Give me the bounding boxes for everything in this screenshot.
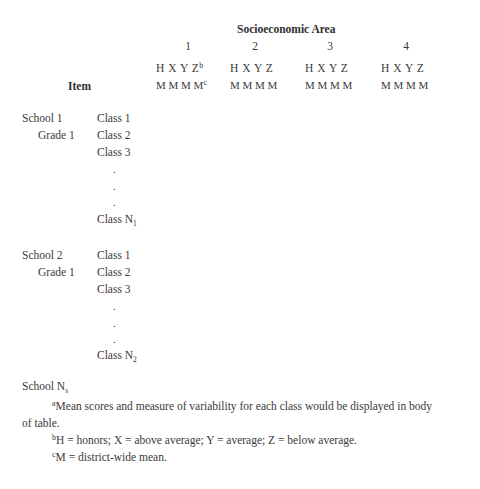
area-2-means: M M M M <box>230 79 277 91</box>
footnote-c: cM = district-wide mean. <box>52 451 167 463</box>
area-number-3: 3 <box>320 40 340 52</box>
school-n-label: School Ns <box>22 380 68 392</box>
ellipsis-dot: . <box>113 163 116 175</box>
area-1-means: M M M Mc <box>156 79 207 91</box>
ellipsis-dot: . <box>113 317 116 329</box>
area-3-means: M M M M <box>305 79 352 91</box>
school-2-class-2: Class 2 <box>97 266 131 278</box>
school-1-label: School 1 <box>22 112 63 124</box>
school-2-grade: Grade 1 <box>38 266 75 278</box>
area-4-levels: H X Y Z <box>381 62 424 74</box>
school-2-label: School 2 <box>22 249 63 261</box>
footnote-b: bH = honors; X = above average; Y = aver… <box>52 434 357 446</box>
area-2-levels: H X Y Z <box>230 62 273 74</box>
area-number-4: 4 <box>396 40 416 52</box>
area-number-1: 1 <box>178 40 198 52</box>
ellipsis-dot: . <box>113 300 116 312</box>
school-2-class-n: Class N2 <box>97 349 137 361</box>
ellipsis-dot: . <box>113 333 116 345</box>
school-1-class-n: Class N1 <box>97 213 137 225</box>
school-1-class-1: Class 1 <box>97 112 131 124</box>
item-column-header: Item <box>68 80 91 92</box>
school-1-class-2: Class 2 <box>97 129 131 141</box>
ellipsis-dot: . <box>113 196 116 208</box>
area-1-levels: H X Y Zb <box>156 62 204 74</box>
area-3-levels: H X Y Z <box>305 62 348 74</box>
area-4-means: M M M M <box>381 79 428 91</box>
area-number-2: 2 <box>245 40 265 52</box>
footnote-mark-c: c <box>203 78 207 87</box>
school-1-class-3: Class 3 <box>97 146 131 158</box>
school-1-grade: Grade 1 <box>38 129 75 141</box>
footnote-a-continuation: of table. <box>22 417 60 429</box>
footnote-mark-b: b <box>199 61 204 70</box>
column-group-title: Socioeconomic Area <box>237 23 335 35</box>
school-2-class-1: Class 1 <box>97 249 131 261</box>
ellipsis-dot: . <box>113 180 116 192</box>
school-2-class-3: Class 3 <box>97 283 131 295</box>
footnote-a: aMean scores and measure of variability … <box>52 400 432 412</box>
